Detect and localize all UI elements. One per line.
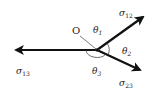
sigma12-vector xyxy=(97,17,143,50)
origin-label: O xyxy=(72,25,80,36)
theta3-label: θ3 xyxy=(92,66,101,77)
triple-junction-diagram: O θ1 θ2 θ3 σ12 σ13 σ23 xyxy=(0,0,153,103)
sigma13-label: σ13 xyxy=(16,66,30,77)
theta2-label: θ2 xyxy=(122,46,131,57)
sigma23-label: σ23 xyxy=(119,78,133,89)
theta1-label: θ1 xyxy=(93,25,102,36)
sigma12-label: σ12 xyxy=(119,8,133,19)
origin-leader-line xyxy=(80,36,96,49)
theta2-arc xyxy=(107,43,109,55)
sigma23-vector xyxy=(97,50,140,70)
